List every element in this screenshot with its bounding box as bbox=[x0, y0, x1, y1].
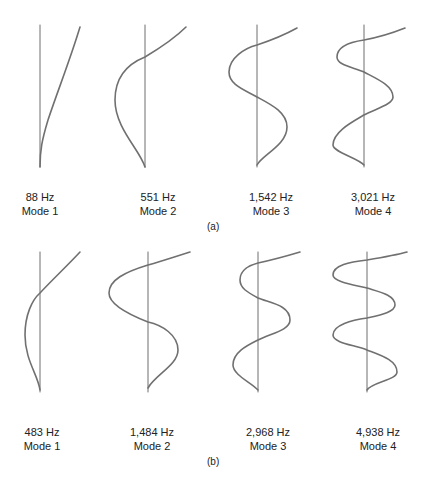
panel-b-caption: (b) bbox=[207, 456, 219, 467]
mode-label: Mode 4 bbox=[333, 204, 413, 218]
panel-a-caption: (a) bbox=[207, 221, 219, 232]
frequency-label: 88 Hz bbox=[0, 190, 80, 204]
frequency-label: 4,938 Hz bbox=[338, 425, 418, 439]
frequency-label: 2,968 Hz bbox=[228, 425, 308, 439]
mode-label: Mode 2 bbox=[112, 439, 192, 453]
panel-b-mode-3-label: 2,968 Hz Mode 3 bbox=[228, 425, 308, 453]
mode-label: Mode 3 bbox=[228, 439, 308, 453]
frequency-label: 1,542 Hz bbox=[231, 190, 311, 204]
panel-a-mode-1-label: 88 Hz Mode 1 bbox=[0, 190, 80, 218]
panel-a-mode-4-label: 3,021 Hz Mode 4 bbox=[333, 190, 413, 218]
panel-a-mode-2-shape bbox=[115, 25, 186, 167]
panel-b-mode-3-shape bbox=[233, 252, 300, 392]
mode-shapes-figure bbox=[0, 0, 426, 482]
mode-label: Mode 3 bbox=[231, 204, 311, 218]
mode-label: Mode 2 bbox=[118, 204, 198, 218]
frequency-label: 551 Hz bbox=[118, 190, 198, 204]
panel-a-mode-3-shape bbox=[229, 25, 297, 167]
panel-b-mode-4-shape bbox=[333, 252, 407, 392]
panel-b-mode-1-label: 483 Hz Mode 1 bbox=[2, 425, 82, 453]
panel-a-mode-4-shape bbox=[333, 25, 405, 167]
mode-label: Mode 1 bbox=[0, 204, 80, 218]
panel-a-mode-1-shape bbox=[40, 25, 80, 167]
mode-label: Mode 4 bbox=[338, 439, 418, 453]
frequency-label: 1,484 Hz bbox=[112, 425, 192, 439]
frequency-label: 483 Hz bbox=[2, 425, 82, 439]
panel-b-mode-1-shape bbox=[25, 252, 80, 392]
mode-label: Mode 1 bbox=[2, 439, 82, 453]
frequency-label: 3,021 Hz bbox=[333, 190, 413, 204]
panel-a-mode-2-label: 551 Hz Mode 2 bbox=[118, 190, 198, 218]
panel-a-mode-3-label: 1,542 Hz Mode 3 bbox=[231, 190, 311, 218]
panel-b-mode-2-label: 1,484 Hz Mode 2 bbox=[112, 425, 192, 453]
panel-b-mode-2-shape bbox=[109, 252, 190, 392]
panel-b-mode-4-label: 4,938 Hz Mode 4 bbox=[338, 425, 418, 453]
